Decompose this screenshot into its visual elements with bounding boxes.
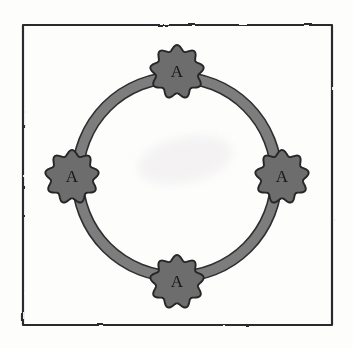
diagram-canvas: AAAA bbox=[0, 0, 353, 348]
node-label: A bbox=[276, 167, 289, 186]
node-label: A bbox=[171, 272, 184, 291]
node-label: A bbox=[66, 167, 79, 186]
ring-topology-diagram: AAAA bbox=[0, 0, 353, 348]
node-label: A bbox=[171, 62, 184, 81]
